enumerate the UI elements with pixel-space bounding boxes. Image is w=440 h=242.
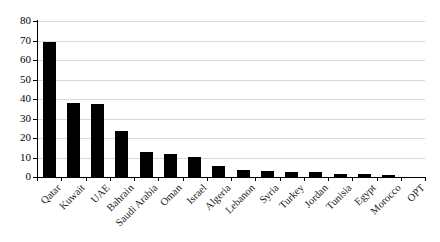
x-axis-tick: [377, 177, 378, 181]
x-axis-tick: [110, 177, 111, 181]
bar[interactable]: [188, 157, 201, 177]
bar[interactable]: [309, 172, 322, 177]
bar[interactable]: [382, 175, 395, 177]
bar[interactable]: [285, 172, 298, 177]
x-axis-tick: [158, 177, 159, 181]
x-axis-tick: [61, 177, 62, 181]
y-axis-tick-label: 20: [20, 132, 31, 143]
x-axis-tick: [328, 177, 329, 181]
bar[interactable]: [261, 171, 274, 177]
x-axis-tick: [304, 177, 305, 181]
bar[interactable]: [115, 131, 128, 177]
x-axis-tick: [207, 177, 208, 181]
y-axis-tick-label: 30: [20, 113, 31, 124]
bar[interactable]: [91, 104, 104, 177]
x-axis-tick: [352, 177, 353, 181]
x-axis-tick: [255, 177, 256, 181]
bar[interactable]: [164, 154, 177, 177]
x-axis-tick: [231, 177, 232, 181]
y-axis-tick-label: 40: [20, 93, 31, 104]
bar[interactable]: [140, 152, 153, 177]
bar[interactable]: [43, 42, 56, 177]
x-axis-tick: [425, 177, 426, 181]
y-axis-tick-label: 0: [26, 171, 32, 182]
y-axis-tick-label: 70: [20, 35, 31, 46]
y-axis-tick-label: 10: [20, 152, 31, 163]
bar[interactable]: [212, 166, 225, 177]
x-axis-tick: [280, 177, 281, 181]
x-axis-tick: [134, 177, 135, 181]
bar[interactable]: [237, 170, 250, 177]
x-axis-tick: [183, 177, 184, 181]
x-axis-tick: [86, 177, 87, 181]
y-axis-tick-label: 80: [20, 15, 31, 26]
x-axis-tick: [401, 177, 402, 181]
y-axis-tick-label: 60: [20, 54, 31, 65]
bar[interactable]: [67, 103, 80, 177]
bars-group: [37, 21, 425, 177]
x-axis-tick: [37, 177, 38, 181]
bar-chart: 01020304050607080 QatarKuwaitUAEBahrainS…: [0, 0, 440, 242]
y-axis-tick-label: 50: [20, 74, 31, 85]
bar[interactable]: [358, 174, 371, 177]
bar[interactable]: [334, 174, 347, 178]
